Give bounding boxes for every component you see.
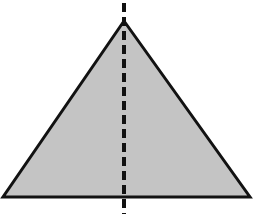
shaded-triangle [3,21,250,197]
geometry-figure: Isosceles triangle with vertical line of… [0,0,261,217]
figure-canvas: Isosceles triangle with vertical line of… [0,0,261,217]
